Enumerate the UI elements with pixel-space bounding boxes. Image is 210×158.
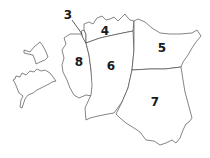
- region-6-label: 6: [107, 59, 115, 73]
- region-4-label: 4: [101, 24, 109, 38]
- region-8-label: 8: [75, 55, 83, 69]
- region-3-label: 3: [64, 8, 72, 22]
- island-north[interactable]: [24, 42, 48, 64]
- island-south[interactable]: [13, 69, 56, 108]
- region-7-label: 7: [151, 95, 159, 109]
- region-3-leader-line: [72, 20, 82, 34]
- region-5[interactable]: [132, 19, 201, 70]
- region-5-label: 5: [158, 41, 166, 55]
- region-map: 3 4 5 6 7 8: [0, 0, 210, 158]
